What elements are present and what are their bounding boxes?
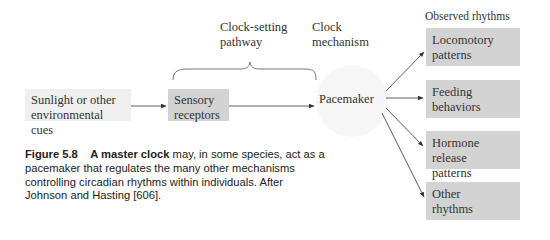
arrow-to-locomotory [386, 52, 424, 91]
environment-line-2: environmental cues [31, 108, 125, 138]
output-line: rhythms [432, 202, 514, 217]
output-line: patterns [432, 166, 514, 181]
caption-lead: A master clock [90, 148, 169, 160]
arrow-to-hormone [386, 108, 423, 146]
output-box-other: Other rhythms [426, 182, 520, 220]
sensory-receptors-box: Sensory receptors [168, 89, 229, 121]
figure-label: Figure 5.8 [25, 148, 78, 160]
output-line: patterns [432, 48, 514, 63]
output-line: Locomotory [432, 33, 514, 48]
clock-setting-brace [173, 62, 316, 80]
output-line: Feeding [432, 85, 514, 100]
sensory-line-1: Sensory [174, 93, 223, 108]
output-line: Hormone release [432, 136, 514, 166]
output-line: Other [432, 187, 514, 202]
output-line: behaviors [432, 100, 514, 115]
environment-line-1: Sunlight or other [31, 93, 125, 108]
output-box-hormone: Hormone release patterns [426, 131, 520, 169]
environmental-cues-box: Sunlight or other environmental cues [25, 89, 131, 121]
output-box-locomotory: Locomotory patterns [426, 28, 520, 66]
sensory-line-2: receptors [174, 108, 223, 123]
pacemaker-label: Pacemaker [319, 92, 374, 107]
figure-caption: Figure 5.8 A master clock may, in some s… [25, 148, 325, 203]
output-box-feeding: Feeding behaviors [426, 80, 520, 118]
